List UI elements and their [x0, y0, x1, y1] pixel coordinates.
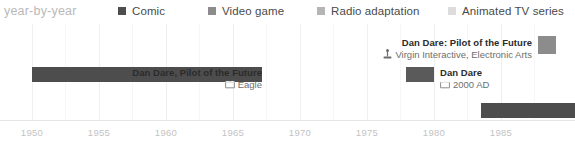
year-by-year-timeline-chart: year-by-year Comic Video game Radio adap…: [0, 0, 575, 144]
x-tick-1955: 1955: [88, 127, 110, 138]
bar-video-game[interactable]: [538, 36, 556, 54]
legend-swatch-animated-tv-series: [448, 7, 456, 15]
legend-label-comic: Comic: [132, 5, 165, 17]
x-tick-1970: 1970: [289, 127, 311, 138]
annotation-eagle-subtitle: Eagle: [238, 79, 262, 90]
x-axis: 1950 1955 1960 1965 1970 1975 1980 1985: [0, 120, 575, 144]
x-tick-1950: 1950: [21, 127, 43, 138]
legend-item-comic[interactable]: Comic: [118, 5, 165, 17]
annotation-2000ad-subtitle-row: 2000 AD: [440, 79, 489, 90]
x-axis-line: [0, 120, 575, 121]
annotation-virgin-subtitle: Virgin Interactive, Electronic Arts: [395, 49, 532, 60]
annotation-virgin-title: Dan Dare: Pilot of the Future: [196, 37, 532, 48]
joystick-icon: [383, 49, 392, 60]
legend-swatch-comic: [118, 7, 126, 15]
legend-item-animated-tv-series[interactable]: Animated TV series: [448, 5, 564, 17]
x-tick-1965: 1965: [222, 127, 244, 138]
x-tick-1975: 1975: [356, 127, 378, 138]
legend-swatch-video-game: [208, 7, 216, 15]
x-tick-1980: 1980: [423, 127, 445, 138]
bar-comic-2000ad[interactable]: [406, 67, 434, 82]
annotation-2000ad-subtitle: 2000 AD: [453, 79, 489, 90]
page-title: year-by-year: [4, 4, 77, 18]
annotation-eagle-subtitle-row: Eagle: [80, 79, 262, 90]
chart-legend: year-by-year Comic Video game Radio adap…: [0, 0, 575, 24]
legend-label-animated-tv-series: Animated TV series: [462, 5, 564, 17]
x-tick-1985: 1985: [490, 127, 512, 138]
annotation-eagle-title: Dan Dare, Pilot of the Future: [80, 67, 262, 78]
bar-comic-late[interactable]: [481, 103, 575, 118]
annotation-2000ad-title: Dan Dare: [440, 67, 489, 78]
legend-label-video-game: Video game: [222, 5, 284, 17]
plot-area: Dan Dare: Pilot of the Future Virgin Int…: [0, 24, 575, 120]
annotation-2000ad: Dan Dare 2000 AD: [440, 67, 489, 90]
annotation-virgin: Dan Dare: Pilot of the Future Virgin Int…: [196, 37, 532, 60]
legend-item-radio-adaptation[interactable]: Radio adaptation: [317, 5, 420, 17]
legend-item-video-game[interactable]: Video game: [208, 5, 284, 17]
legend-label-radio-adaptation: Radio adaptation: [331, 5, 420, 17]
comic-book-icon: [440, 81, 450, 89]
legend-swatch-radio-adaptation: [317, 7, 325, 15]
x-tick-1960: 1960: [155, 127, 177, 138]
annotation-virgin-subtitle-row: Virgin Interactive, Electronic Arts: [196, 49, 532, 60]
comic-book-icon: [225, 81, 235, 89]
annotation-eagle: Dan Dare, Pilot of the Future Eagle: [80, 67, 262, 90]
